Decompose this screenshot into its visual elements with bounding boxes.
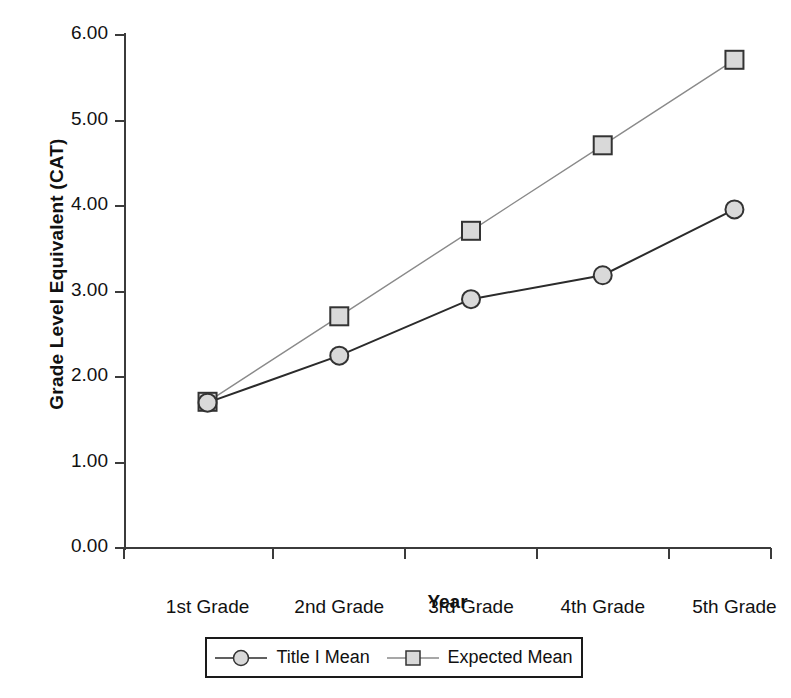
- circle-marker-icon: [215, 648, 267, 668]
- square-marker-icon: [387, 648, 439, 668]
- y-axis-title: Grade Level Equivalent (CAT): [46, 39, 68, 509]
- y-tick-label: 6.00: [71, 22, 108, 44]
- data-point-marker: [594, 136, 612, 154]
- data-point-marker: [330, 307, 348, 325]
- x-tick: [404, 548, 406, 559]
- y-tick-label: 3.00: [71, 279, 108, 301]
- y-tick: 3.00: [115, 291, 124, 293]
- x-axis-title: Year: [124, 591, 771, 613]
- data-point-marker: [725, 200, 743, 218]
- y-tick-label: 1.00: [71, 450, 108, 472]
- y-tick: 4.00: [115, 205, 124, 207]
- x-tick: [536, 548, 538, 559]
- chart-legend: Title I Mean Expected Mean: [205, 637, 583, 678]
- y-tick: 6.00: [115, 34, 124, 36]
- data-point-marker: [594, 266, 612, 284]
- y-tick: 1.00: [115, 462, 124, 464]
- plot-area: 0.001.002.003.004.005.006.00 1st Grade2n…: [124, 35, 771, 548]
- data-point-marker: [462, 290, 480, 308]
- data-point-marker: [330, 347, 348, 365]
- data-point-marker: [462, 222, 480, 240]
- y-tick-label: 4.00: [71, 193, 108, 215]
- y-tick: 5.00: [115, 120, 124, 122]
- x-tick: [123, 548, 125, 559]
- y-tick-label: 5.00: [71, 108, 108, 130]
- y-tick: 2.00: [115, 376, 124, 378]
- y-tick-label: 0.00: [71, 535, 108, 557]
- legend-label-expected: Expected Mean: [448, 647, 573, 668]
- x-tick: [668, 548, 670, 559]
- x-tick: [770, 548, 772, 559]
- legend-label-title-i: Title I Mean: [276, 647, 369, 668]
- legend-entry-title-i: Title I Mean: [215, 647, 369, 668]
- legend-entry-expected: Expected Mean: [387, 647, 573, 668]
- y-tick-label: 2.00: [71, 364, 108, 386]
- series-layer: [124, 35, 771, 548]
- data-point-marker: [199, 394, 217, 412]
- x-tick: [272, 548, 274, 559]
- chart-figure: Grade Level Equivalent (CAT) 0.001.002.0…: [0, 0, 791, 698]
- data-point-marker: [725, 51, 743, 69]
